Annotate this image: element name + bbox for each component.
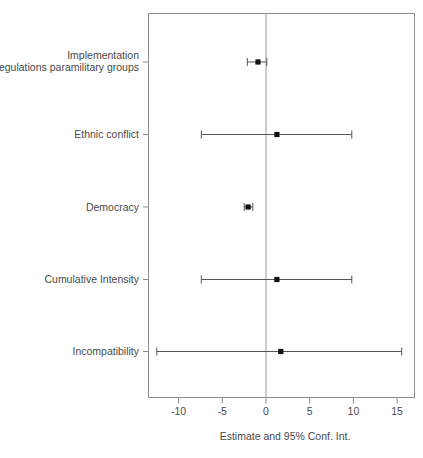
x-tick-label: -5 bbox=[218, 405, 227, 417]
x-axis-title: Estimate and 95% Conf. Int. bbox=[220, 430, 351, 442]
estimate-point bbox=[255, 59, 260, 64]
category-label-line1: Implementation bbox=[67, 49, 139, 61]
x-tick-label: 10 bbox=[348, 405, 360, 417]
category-label: Incompatibility bbox=[72, 345, 139, 357]
forest-plot-figure: Implementation regulations paramilitary … bbox=[0, 0, 423, 458]
x-tick-label: 5 bbox=[307, 405, 313, 417]
category-label: Ethnic conflict bbox=[74, 128, 139, 140]
x-tick-label: 15 bbox=[391, 405, 403, 417]
estimate-point bbox=[246, 204, 251, 209]
x-tick-label: -10 bbox=[171, 405, 186, 417]
category-label-line2: regulations paramilitary groups bbox=[0, 61, 139, 73]
category-label: Democracy bbox=[86, 201, 140, 213]
estimate-point bbox=[274, 277, 279, 282]
x-tick-label: 0 bbox=[263, 405, 269, 417]
estimate-point bbox=[278, 349, 283, 354]
forest-plot-svg: Implementation regulations paramilitary … bbox=[0, 0, 423, 458]
category-label: Cumulative Intensity bbox=[44, 273, 139, 285]
estimate-point bbox=[274, 132, 279, 137]
